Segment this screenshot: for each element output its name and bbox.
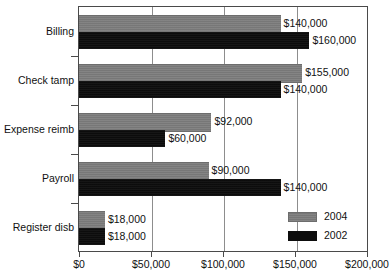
bar-value-label: $155,000 <box>305 66 349 78</box>
bar-value-label: $18,000 <box>108 230 146 242</box>
bar-value-label: $140,000 <box>284 83 328 95</box>
y-axis-tick <box>71 154 79 155</box>
x-axis-tick <box>79 252 80 257</box>
legend-label-2004: 2004 <box>324 211 347 222</box>
category-label: Register disb <box>0 222 74 233</box>
category-label: Payroll <box>0 173 74 184</box>
y-axis-tick <box>71 56 79 57</box>
legend: 2004 2002 <box>288 209 360 247</box>
x-axis-tick <box>151 252 152 257</box>
x-axis-tick-label: $0 <box>73 258 85 270</box>
legend-label-2002: 2002 <box>324 230 347 241</box>
legend-item-2004: 2004 <box>288 209 360 224</box>
bar-value-label: $140,000 <box>284 17 328 29</box>
bar-value-label: $90,000 <box>212 164 250 176</box>
category-label: Expense reimb <box>0 124 74 135</box>
category-label: Billing <box>0 26 74 37</box>
bar-value-label: $92,000 <box>214 115 252 127</box>
bar-chart: Billing$140,000$160,000Check tamp$155,00… <box>0 0 390 275</box>
bar-2002-check-tamp <box>79 81 281 98</box>
x-axis-tick-label: $200,000 <box>345 258 389 270</box>
bar-2002-payroll <box>79 179 281 196</box>
bar-value-label: $18,000 <box>108 213 146 225</box>
category-label: Check tamp <box>0 75 74 86</box>
x-axis-tick <box>295 252 296 257</box>
bar-2002-expense-reimb <box>79 130 165 147</box>
legend-item-2002: 2002 <box>288 228 360 243</box>
bar-value-label: $140,000 <box>284 181 328 193</box>
legend-swatch-2004 <box>288 212 317 222</box>
y-axis-tick <box>71 203 79 204</box>
x-axis-tick-label: $150,000 <box>273 258 317 270</box>
bar-value-label: $160,000 <box>312 34 356 46</box>
x-axis-tick <box>367 252 368 257</box>
bar-2002-billing <box>79 32 309 49</box>
x-axis-tick <box>223 252 224 257</box>
x-axis-tick-label: $100,000 <box>201 258 245 270</box>
bar-2002-register-disb <box>79 228 105 245</box>
legend-swatch-2002 <box>288 231 317 241</box>
bar-value-label: $60,000 <box>168 132 206 144</box>
x-axis-tick-label: $50,000 <box>132 258 170 270</box>
y-axis-tick <box>71 105 79 106</box>
